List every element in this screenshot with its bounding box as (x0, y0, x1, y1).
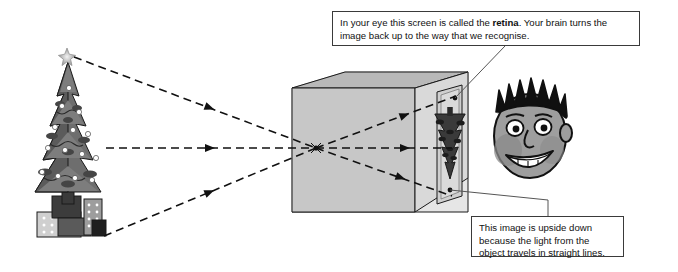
upside-down-callout-line3: object travels in straight lines. (479, 247, 616, 260)
retina-callout: In your eye this screen is called the re… (332, 11, 640, 46)
upside-down-callout-line2: because the light from the (479, 235, 616, 248)
upside-down-callout: This image is upside down because the li… (471, 216, 624, 257)
star-topper (58, 48, 75, 66)
christmas-tree (35, 48, 106, 237)
upside-down-callout-line1: This image is upside down (479, 222, 616, 235)
pinhole-box (292, 72, 468, 212)
ray-top-incoming (74, 57, 316, 148)
retina-callout-emphasis: retina (493, 17, 519, 28)
retina-callout-text-before: In your eye this screen is called the (340, 17, 493, 28)
observer-face (494, 78, 572, 178)
figure-canvas: In your eye this screen is called the re… (0, 0, 678, 272)
